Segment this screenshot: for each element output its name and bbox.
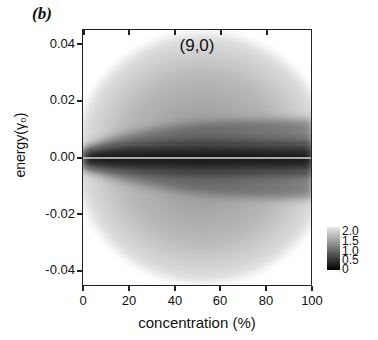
colorbar bbox=[327, 227, 340, 270]
y-tick-label: 0.00 bbox=[5, 149, 75, 164]
x-tick-label: 40 bbox=[155, 293, 195, 308]
x-tick-label: 60 bbox=[200, 293, 240, 308]
x-axis-label: concentration (%) bbox=[82, 314, 312, 331]
y-tick-label: 0.04 bbox=[5, 36, 75, 51]
x-tick-label: 100 bbox=[292, 293, 332, 308]
panel-label: (b) bbox=[32, 4, 52, 24]
x-tick bbox=[174, 286, 176, 291]
x-tick bbox=[82, 286, 84, 291]
y-axis-label: energy(γ₀) bbox=[12, 95, 28, 195]
x-tick-top bbox=[83, 30, 85, 35]
x-tick-label: 80 bbox=[246, 293, 286, 308]
x-tick bbox=[311, 286, 313, 291]
chart-title: (9,0) bbox=[83, 36, 311, 56]
x-tick-top bbox=[266, 30, 268, 35]
x-tick-top bbox=[128, 30, 130, 35]
x-tick-label: 0 bbox=[63, 293, 103, 308]
y-tick-label: -0.04 bbox=[5, 262, 75, 277]
y-tick-label: 0.02 bbox=[5, 92, 75, 107]
x-tick bbox=[128, 286, 130, 291]
x-tick-top bbox=[220, 30, 222, 35]
x-tick-label: 20 bbox=[109, 293, 149, 308]
heatmap-image bbox=[83, 30, 312, 286]
x-tick bbox=[265, 286, 267, 291]
x-tick bbox=[219, 286, 221, 291]
x-tick-top bbox=[174, 30, 176, 35]
colorbar-label: 0 bbox=[342, 264, 349, 274]
heatmap-plot-area: (9,0) bbox=[82, 29, 312, 286]
y-tick-label: -0.02 bbox=[5, 206, 75, 221]
